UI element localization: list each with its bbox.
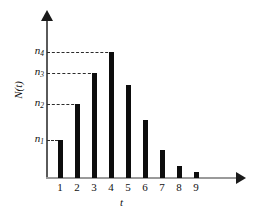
y-axis-title: N(t) [12,81,24,99]
bar-8 [177,166,182,178]
y-tick-label-n3: n3 [22,65,44,77]
bar-6 [143,120,148,178]
x-axis-title: t [120,196,123,208]
x-tick-label-8: 8 [171,181,187,193]
guide-line-n4 [47,52,113,53]
x-tick-label-6: 6 [137,181,153,193]
y-axis-line [46,20,48,179]
y-axis-arrow-icon [41,10,53,21]
bar-9 [194,172,199,178]
y-tick-subscript-2: 2 [40,101,44,110]
y-tick-subscript-1: 1 [40,137,44,146]
x-tick-label-7: 7 [154,181,170,193]
x-tick-label-5: 5 [120,181,136,193]
bar-7 [160,150,165,178]
x-tick-label-4: 4 [103,181,119,193]
bar-3 [92,73,97,178]
y-tick-label-n1: n1 [22,132,44,144]
x-axis-title-text: t [120,196,123,208]
guide-line-n3 [47,73,96,74]
x-axis-arrow-icon [236,172,246,184]
x-tick-label-1: 1 [52,181,68,193]
x-tick-label-3: 3 [86,181,102,193]
bar-4 [109,52,114,178]
y-tick-label-n2: n2 [22,96,44,108]
y-tick-subscript-3: 3 [40,70,44,79]
bar-5 [126,85,131,178]
y-tick-label-n4: n4 [22,44,44,56]
x-tick-label-9: 9 [188,181,204,193]
y-axis-title-text: N(t) [12,81,24,99]
bar-1 [58,140,63,178]
bar-chart-figure: 123456789 n1n2n3n4 N(t) t [0,0,259,216]
y-tick-subscript-4: 4 [40,49,44,58]
x-tick-label-2: 2 [69,181,85,193]
bar-2 [75,104,80,178]
